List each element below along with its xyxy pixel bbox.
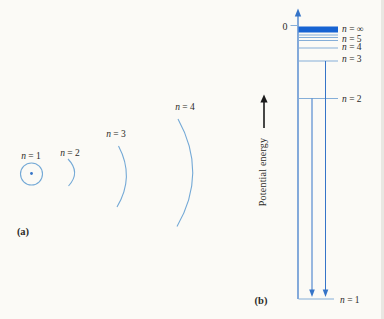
transition-n2-to-n1-arrowhead: [309, 290, 315, 298]
level-label-n3: n = 3: [342, 54, 362, 64]
zero-label: 0: [283, 21, 288, 32]
continuum-block: [299, 27, 339, 33]
nucleus-dot: [30, 172, 33, 175]
transition-n3-to-n1-arrowhead: [323, 290, 329, 298]
level-label-n2: n = 2: [342, 94, 362, 104]
orbit-label-n1: n = 1: [21, 151, 41, 161]
level-label-infinity: n = ∞: [342, 24, 364, 34]
figure-artwork: [0, 0, 384, 319]
orbit-n2-arc: [68, 159, 75, 186]
figure-canvas: n = 1 n = 2 n = 3 n = 4 (a) 0 n = ∞ n = …: [0, 0, 384, 319]
potential-energy-arrowhead: [260, 95, 267, 103]
orbit-label-n2: n = 2: [60, 148, 80, 158]
panel-b-caption: (b): [255, 295, 268, 306]
orbit-label-n4: n = 4: [175, 102, 195, 112]
orbit-label-n3: n = 3: [106, 129, 126, 139]
orbit-n4-arc: [177, 119, 193, 227]
level-label-n4: n = 4: [342, 42, 362, 52]
orbit-n3-arc: [117, 146, 126, 207]
panel-a-caption: (a): [17, 226, 29, 237]
potential-energy-axis-label: Potential energy: [257, 138, 268, 206]
level-label-n1: n = 1: [340, 295, 360, 305]
energy-axis-arrowhead: [295, 9, 301, 17]
